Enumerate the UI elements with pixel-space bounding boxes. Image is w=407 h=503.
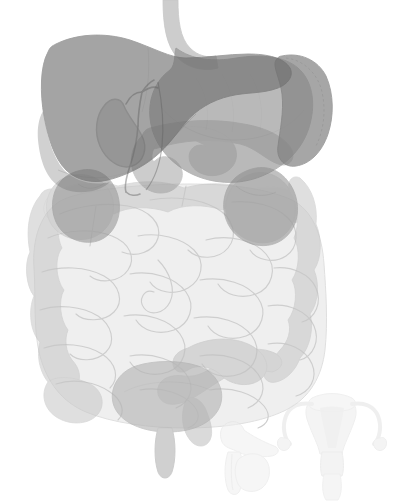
- ovary-left: [277, 437, 290, 450]
- male-reproductive-inset: [220, 421, 278, 494]
- urinary-bladder: [112, 362, 221, 433]
- cervix: [321, 452, 344, 476]
- male-bladder-prostate-outline: [220, 421, 278, 456]
- vagina: [323, 474, 342, 500]
- bladder-group: [112, 362, 221, 479]
- female-reproductive-inset: [277, 394, 386, 501]
- bladder-neck-urethra: [155, 428, 175, 478]
- anatomy-illustration-canvas: [0, 0, 407, 503]
- anatomy-figure: Human abdominal and pelvic organ overvie…: [0, 0, 407, 503]
- male-scrotum-testis: [235, 454, 269, 492]
- ovary-right: [373, 437, 386, 450]
